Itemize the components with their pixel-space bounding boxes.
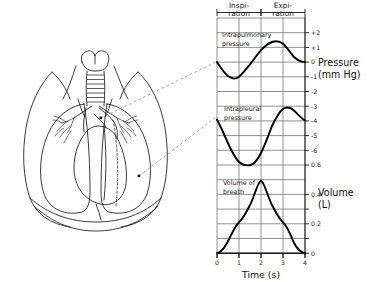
clavicle-left — [52, 72, 70, 99]
ytick-p-1: +1 — [311, 44, 320, 51]
volume-label-line2: breath — [223, 188, 244, 196]
ytick-v-3: 0 — [311, 250, 315, 257]
expiration-label-line2: ration — [272, 9, 294, 18]
right-lung-outline — [101, 104, 150, 213]
pressure-tick-labels: +2 +1 0 -1 -2 -3 -4 -5 -6 — [311, 29, 320, 154]
x-axis — [217, 253, 305, 258]
ytick-p-0: +2 — [311, 29, 320, 36]
xtick-1: 1 — [237, 259, 241, 266]
intrapleural-label-line2: pressure — [224, 114, 252, 122]
left-main-bronchus — [74, 106, 92, 118]
intrapulmonary-label-line1: Intrapulmonary — [222, 31, 272, 39]
thorax-anatomy-illustration — [24, 51, 168, 231]
heart-outline — [74, 126, 127, 205]
ytick-p-2: 0 — [311, 58, 315, 65]
xtick-3: 3 — [281, 259, 285, 266]
graph-panel: Inspi- ration Expi- ration — [215, 1, 361, 280]
pressure-axis-title-line2: (mm Hg) — [318, 69, 361, 80]
neck-right-border — [114, 66, 128, 99]
figure-svg: Inspi- ration Expi- ration — [0, 0, 377, 282]
right-main-bronchus — [99, 106, 117, 118]
thorax-outline-right — [121, 72, 167, 227]
pressure-axis-title-line1: Pressure — [318, 57, 359, 68]
intrapulmonary-label-line2: pressure — [222, 40, 250, 48]
y-axis — [305, 16, 309, 255]
heart-septum — [104, 126, 106, 200]
diaphragm-lower-curve — [34, 206, 158, 231]
volume-axis-title-line2: (L) — [318, 199, 331, 210]
left-lung-outline — [41, 104, 90, 213]
xtick-4: 4 — [303, 259, 307, 266]
anchor-lower — [138, 175, 141, 178]
intrapleural-label-line1: Intrapleural — [224, 105, 261, 113]
anchor-upper — [100, 117, 103, 120]
ytick-v-0: 0.6 — [311, 161, 321, 168]
time-tick-labels: 0 1 2 3 4 — [215, 259, 307, 266]
respiratory-mechanics-figure: Inspi- ration Expi- ration — [0, 0, 377, 282]
thorax-outline-left — [24, 72, 70, 227]
tracheal-rings — [87, 75, 104, 102]
ytick-p-5: -3 — [311, 103, 317, 110]
clavicle-right — [120, 72, 138, 99]
ytick-p-6: -4 — [311, 117, 317, 124]
ytick-p-3: -1 — [311, 73, 317, 80]
volume-label-line1: Volume of — [223, 179, 256, 187]
inspiration-label-line2: ration — [228, 9, 250, 18]
y-axis-ticks — [305, 33, 309, 254]
ytick-v-2: 0.2 — [311, 220, 321, 227]
ytick-p-7: -5 — [311, 132, 317, 139]
bronchial-tree-left — [53, 116, 74, 143]
volume-axis-title-line1: Volume — [318, 187, 354, 198]
time-axis-title: Time (s) — [241, 269, 280, 280]
leader-line-intrapulmonary — [101, 62, 216, 118]
ytick-p-4: -2 — [311, 88, 317, 95]
neck-left-border — [63, 66, 76, 99]
xtick-2: 2 — [259, 259, 263, 266]
xtick-0: 0 — [215, 259, 219, 266]
inferior-vessel — [96, 204, 101, 220]
leader-lines — [101, 62, 216, 176]
bronchial-tree-right — [117, 116, 138, 143]
pulmonary-artery — [94, 114, 106, 127]
ytick-p-8: -6 — [311, 147, 317, 154]
diaphragm-line — [30, 198, 161, 222]
